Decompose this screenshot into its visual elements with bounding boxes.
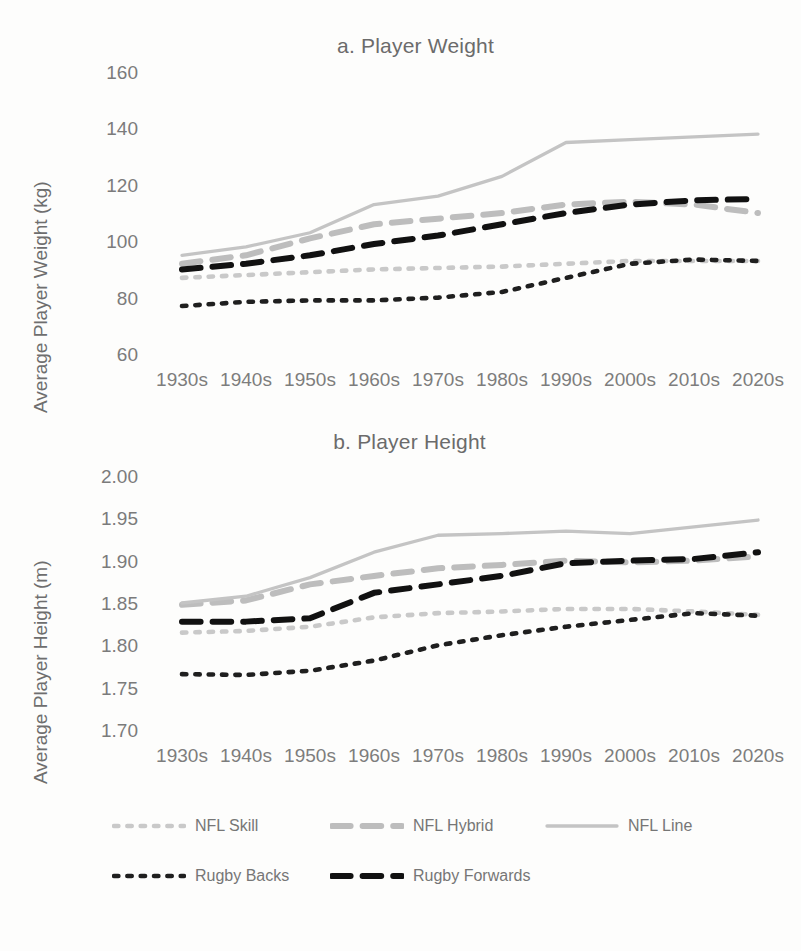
plot-area-height: Average Player Height (m) 1.701.751.801.… bbox=[0, 454, 801, 794]
x-axis-category-label: 1980s bbox=[476, 745, 528, 766]
series-line bbox=[182, 134, 758, 255]
legend-item-label: NFL Hybrid bbox=[413, 817, 493, 835]
legend-swatch-dashed bbox=[330, 820, 404, 832]
x-axis-category-label: 1990s bbox=[540, 745, 592, 766]
x-axis-category-label: 2020s bbox=[732, 745, 784, 766]
x-axis-category-label: 1930s bbox=[156, 745, 208, 766]
x-axis-category-label: 1930s bbox=[156, 369, 208, 390]
legend-item-label: NFL Line bbox=[628, 817, 692, 835]
x-axis-category-label: 1950s bbox=[284, 369, 336, 390]
y-axis-tick-label: 60 bbox=[117, 344, 138, 365]
legend-swatch-dashed bbox=[330, 870, 404, 882]
y-axis-tick-label: 120 bbox=[106, 175, 138, 196]
y-axis-tick-label: 2.00 bbox=[101, 466, 138, 487]
y-axis-tick-label: 1.90 bbox=[101, 551, 138, 572]
y-axis-tick-label: 1.70 bbox=[101, 720, 138, 741]
x-axis-category-label: 2010s bbox=[668, 745, 720, 766]
y-axis-tick-label: 1.80 bbox=[101, 635, 138, 656]
legend-item-label: NFL Skill bbox=[195, 817, 258, 835]
y-axis-tick-label: 100 bbox=[106, 231, 138, 252]
legend-item-nfl-line[interactable]: NFL Line bbox=[545, 817, 692, 835]
y-axis-tick-label: 80 bbox=[117, 288, 138, 309]
plot-area-weight: Average Player Weight (kg) 6080100120140… bbox=[0, 58, 801, 418]
x-axis-category-label: 1950s bbox=[284, 745, 336, 766]
legend-item-label: Rugby Forwards bbox=[413, 867, 530, 885]
x-axis-category-label: 2000s bbox=[604, 369, 656, 390]
series-line bbox=[182, 609, 758, 633]
x-axis-category-label: 2000s bbox=[604, 745, 656, 766]
x-axis-category-label: 1980s bbox=[476, 369, 528, 390]
legend-item-nfl-skill[interactable]: NFL Skill bbox=[112, 817, 258, 835]
x-axis-category-label: 1960s bbox=[348, 745, 400, 766]
legend-swatch-dotted bbox=[112, 870, 186, 882]
figure-page: a. Player Weight Average Player Weight (… bbox=[0, 0, 801, 951]
chart-title-height: b. Player Height bbox=[0, 430, 801, 454]
chart-svg-weight: 60801001201401601930s1940s1950s1960s1970… bbox=[0, 58, 801, 418]
legend-item-rugby-backs[interactable]: Rugby Backs bbox=[112, 867, 289, 885]
legend-item-rugby-forwards[interactable]: Rugby Forwards bbox=[330, 867, 530, 885]
chart-panel-height: b. Player Height Average Player Height (… bbox=[0, 430, 801, 810]
chart-panel-weight: a. Player Weight Average Player Weight (… bbox=[0, 34, 801, 434]
series-line bbox=[182, 261, 758, 278]
x-axis-category-label: 1970s bbox=[412, 369, 464, 390]
y-axis-tick-label: 160 bbox=[106, 62, 138, 83]
legend-swatch-dotted bbox=[112, 820, 186, 832]
x-axis-category-label: 2010s bbox=[668, 369, 720, 390]
y-axis-tick-label: 1.75 bbox=[101, 678, 138, 699]
chart-svg-height: 1.701.751.801.851.901.952.001930s1940s19… bbox=[0, 454, 801, 794]
x-axis-category-label: 2020s bbox=[732, 369, 784, 390]
x-axis-category-label: 1970s bbox=[412, 745, 464, 766]
legend-swatch-solid bbox=[545, 820, 619, 832]
x-axis-category-label: 1990s bbox=[540, 369, 592, 390]
legend-item-label: Rugby Backs bbox=[195, 867, 289, 885]
y-axis-tick-label: 140 bbox=[106, 118, 138, 139]
series-line bbox=[182, 260, 758, 307]
x-axis-category-label: 1940s bbox=[220, 369, 272, 390]
series-line bbox=[182, 613, 758, 675]
chart-title-weight: a. Player Weight bbox=[0, 34, 801, 58]
y-axis-title-weight: Average Player Weight (kg) bbox=[30, 181, 52, 413]
legend-item-nfl-hybrid[interactable]: NFL Hybrid bbox=[330, 817, 493, 835]
x-axis-category-label: 1940s bbox=[220, 745, 272, 766]
x-axis-category-label: 1960s bbox=[348, 369, 400, 390]
y-axis-title-height: Average Player Height (m) bbox=[30, 560, 52, 784]
y-axis-tick-label: 1.85 bbox=[101, 593, 138, 614]
y-axis-tick-label: 1.95 bbox=[101, 508, 138, 529]
